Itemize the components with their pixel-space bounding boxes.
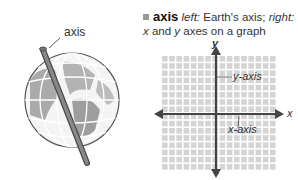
coordinate-graph — [150, 42, 298, 180]
y-axis-text: y-axis — [233, 70, 262, 82]
x-axis-label: x-axis — [228, 123, 257, 135]
bullet-icon — [143, 14, 149, 20]
x-var-label: x — [287, 107, 293, 119]
definition: axis left: Earth's axis; right: x and y … — [143, 10, 298, 38]
axes-text: axes on a graph — [180, 25, 266, 37]
term: axis — [153, 9, 178, 24]
left-label: left: — [182, 11, 201, 23]
y-var-label: y — [212, 37, 218, 49]
left-text: Earth's axis; — [200, 11, 269, 23]
x-axis-text: x-axis — [228, 123, 257, 135]
y-axis-label: y-axis — [233, 70, 262, 82]
and-text: and — [149, 25, 175, 37]
globe-axis-label: axis — [64, 25, 85, 39]
right-label: right: — [269, 11, 295, 23]
